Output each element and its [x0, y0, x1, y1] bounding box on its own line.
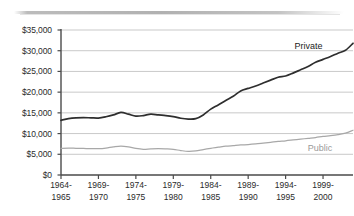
x-axis-tick-label: 1999-2000 — [312, 180, 334, 203]
x-axis-tick-label: 1989-1990 — [237, 180, 259, 203]
x-axis-tick-label: 1964-1965 — [50, 180, 72, 203]
series-label-public: Public — [308, 143, 333, 153]
x-axis-tick-label: 1994-1995 — [275, 180, 297, 203]
y-axis-tick-label: $15,000 — [22, 108, 52, 118]
x-axis-tick-label: 1979-1980 — [162, 180, 184, 203]
y-axis-tick-label: $25,000 — [22, 66, 52, 76]
x-axis-tick-label: 1984-1985 — [200, 180, 222, 203]
chart-container: $0$5,000$10,000$15,000$20,000$25,000$30,… — [0, 0, 354, 216]
series-label-private: Private — [295, 41, 323, 51]
y-axis-tick-label: $35,000 — [22, 25, 52, 35]
y-axis-tick-label: $0 — [43, 170, 52, 180]
plot-area: Private Public — [61, 30, 353, 175]
x-axis-tick-labels: 1964-19651969-19701974-19751979-19801984… — [61, 180, 353, 214]
y-axis-tick-label: $20,000 — [22, 87, 52, 97]
x-axis-tick-label: 1974-1975 — [125, 180, 147, 203]
y-axis-tick-label: $5,000 — [27, 149, 52, 159]
y-axis-tick-label: $10,000 — [22, 129, 52, 139]
y-axis-tick-label: $30,000 — [22, 46, 52, 56]
series-line-private — [61, 43, 353, 120]
x-axis-tick-label: 1969-1970 — [88, 180, 110, 203]
scan-artifact-band-secondary — [20, 14, 340, 15]
